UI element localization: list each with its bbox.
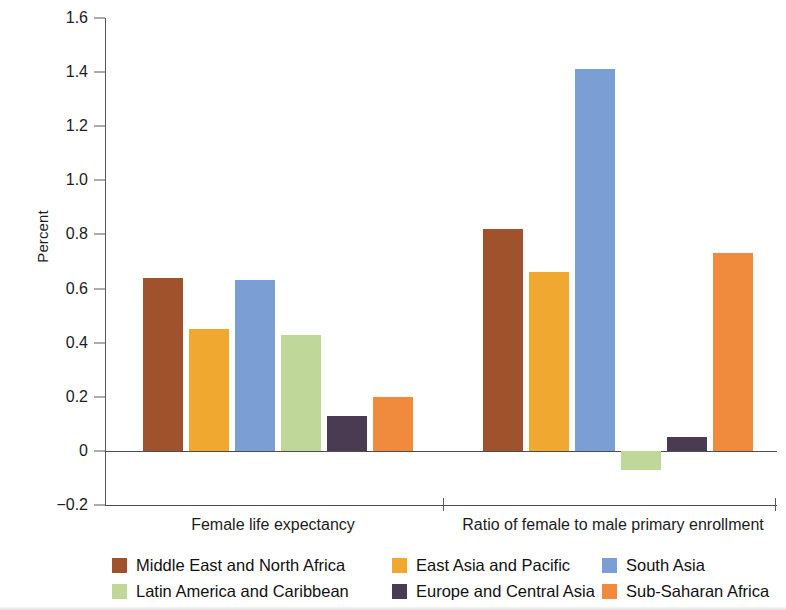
scan-edge-shadow <box>0 606 786 610</box>
legend-item: Latin America and Caribbean <box>112 579 349 603</box>
bar <box>621 451 661 470</box>
legend-label: Europe and Central Asia <box>416 583 595 600</box>
chart-legend: Middle East and North AfricaEast Asia an… <box>112 553 784 605</box>
y-tick-mark <box>94 72 105 73</box>
y-tick-label: 0.8 <box>66 225 88 243</box>
y-tick-mark <box>94 342 105 343</box>
legend-label: East Asia and Pacific <box>416 557 570 574</box>
legend-item: Europe and Central Asia <box>392 579 595 603</box>
bar <box>281 335 321 451</box>
y-tick-label: 0.4 <box>66 334 88 352</box>
legend-color-swatch <box>602 584 617 599</box>
bar-series-container <box>105 18 777 505</box>
legend-label: South Asia <box>626 557 705 574</box>
y-tick-mark <box>94 234 105 235</box>
y-tick-mark <box>94 126 105 127</box>
y-axis-ticks: 1.61.41.21.00.80.60.40.20−0.2 <box>0 0 110 610</box>
y-tick-label: 1.2 <box>66 117 88 135</box>
x-axis-group-tick <box>775 498 776 511</box>
legend-label: Latin America and Caribbean <box>136 583 349 600</box>
bar <box>713 253 753 451</box>
legend-color-swatch <box>392 558 407 573</box>
y-tick-label: 0.2 <box>66 388 88 406</box>
bar <box>143 278 183 451</box>
y-tick-mark <box>94 18 105 19</box>
y-tick-mark <box>94 505 105 506</box>
x-axis-category-label: Female life expectancy <box>191 516 355 534</box>
bar <box>483 229 523 451</box>
bar <box>575 69 615 450</box>
bar <box>235 280 275 450</box>
plot-area <box>105 18 777 505</box>
bar-chart-figure: Percent 1.61.41.21.00.80.60.40.20−0.2 Fe… <box>0 0 786 610</box>
legend-color-swatch <box>602 558 617 573</box>
x-axis-category-label: Ratio of female to male primary enrollme… <box>462 516 763 534</box>
bar <box>327 416 367 451</box>
legend-item: East Asia and Pacific <box>392 553 570 577</box>
legend-color-swatch <box>112 558 127 573</box>
y-tick-label: 1.6 <box>66 9 88 27</box>
y-tick-mark <box>94 288 105 289</box>
bar <box>373 397 413 451</box>
y-tick-label: 1.0 <box>66 171 88 189</box>
legend-color-swatch <box>392 584 407 599</box>
axis-bottom-line <box>105 505 777 506</box>
y-tick-mark <box>94 396 105 397</box>
bar <box>189 329 229 451</box>
y-tick-mark <box>94 450 105 451</box>
legend-label: Middle East and North Africa <box>136 557 345 574</box>
y-tick-label: 1.4 <box>66 63 88 81</box>
legend-color-swatch <box>112 584 127 599</box>
x-axis-labels: Female life expectancyRatio of female to… <box>105 516 777 542</box>
x-axis-group-tick <box>443 498 444 511</box>
y-tick-mark <box>94 180 105 181</box>
y-tick-label: −0.2 <box>56 496 88 514</box>
legend-label: Sub-Saharan Africa <box>626 583 769 600</box>
y-tick-label: 0 <box>79 442 88 460</box>
bar <box>667 437 707 451</box>
legend-item: South Asia <box>602 553 705 577</box>
legend-item: Sub-Saharan Africa <box>602 579 769 603</box>
y-tick-label: 0.6 <box>66 280 88 298</box>
legend-item: Middle East and North Africa <box>112 553 345 577</box>
bar <box>529 272 569 451</box>
